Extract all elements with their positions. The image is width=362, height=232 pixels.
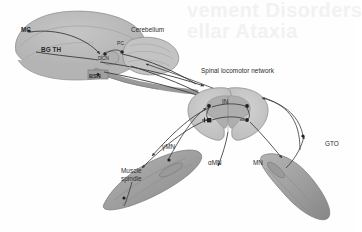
label-brainstem-nuclei: BSN bbox=[89, 73, 101, 80]
label-cerebellum: Cerebellum bbox=[131, 26, 164, 33]
label-gamma-motor-neuron: γMN bbox=[162, 143, 175, 150]
label-purkinje-cell: PC bbox=[117, 40, 124, 47]
label-basal-ganglia-thalamus: BG TH bbox=[41, 46, 61, 53]
label-muscle-spindle-line1: Muscle bbox=[121, 167, 142, 174]
label-golgi-tendon-organ: GTO bbox=[325, 140, 339, 147]
label-spinal-locomotor-network: Spinal locomotor network bbox=[201, 67, 274, 74]
label-motor-neuron: MN bbox=[253, 159, 263, 166]
muscle-right bbox=[261, 154, 330, 220]
label-interneuron: IN bbox=[222, 98, 229, 105]
amn-soma-left bbox=[207, 118, 211, 122]
in-node-left bbox=[207, 104, 211, 108]
label-alpha-motor-neuron: αMN bbox=[208, 159, 222, 166]
in-node-right bbox=[245, 104, 249, 108]
label-motor-cortex: MC bbox=[21, 26, 31, 33]
mn-axon-right bbox=[250, 122, 282, 158]
label-deep-cerebellar-nuclei: DCN bbox=[98, 55, 109, 62]
label-muscle-spindle-line2: spindle bbox=[121, 175, 142, 182]
muscle-left bbox=[103, 150, 201, 210]
